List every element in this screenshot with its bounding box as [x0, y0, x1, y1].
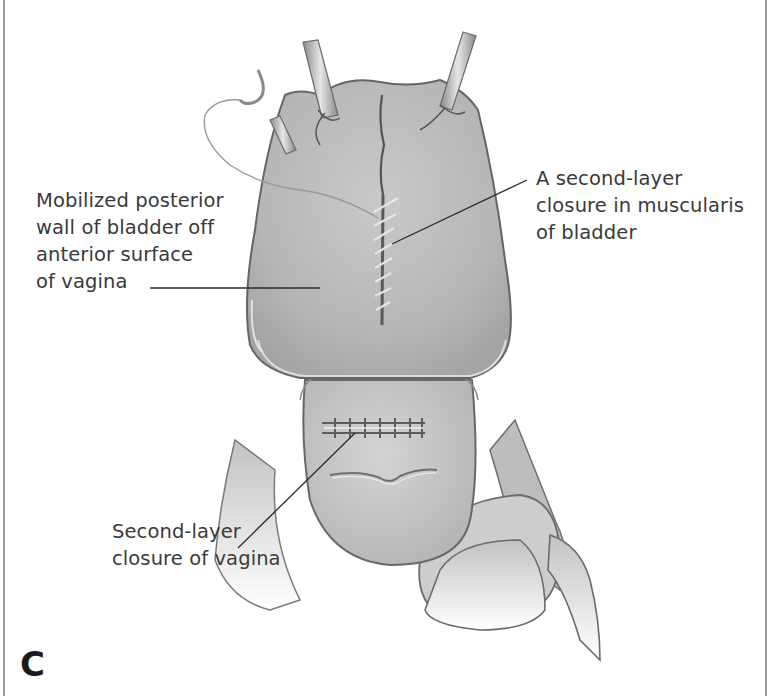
label-line: of vagina [36, 268, 224, 295]
label-line: closure in muscularis [536, 192, 744, 219]
label-line: of bladder [536, 219, 744, 246]
label-line: anterior surface [36, 241, 224, 268]
surgical-illustration [0, 0, 773, 696]
label-line: closure of vagina [112, 545, 281, 572]
figure-frame: Mobilized posterior wall of bladder off … [0, 0, 773, 696]
bladder-illustration [247, 80, 511, 378]
label-line: A second-layer [536, 165, 744, 192]
label-vagina-closure: Second-layer closure of vagina [112, 518, 281, 572]
vagina-illustration [300, 370, 478, 565]
label-muscularis-closure: A second-layer closure in muscularis of … [536, 165, 744, 246]
label-bladder-wall: Mobilized posterior wall of bladder off … [36, 187, 224, 295]
label-line: Mobilized posterior [36, 187, 224, 214]
panel-letter: C [20, 644, 45, 684]
label-line: Second-layer [112, 518, 281, 545]
label-line: wall of bladder off [36, 214, 224, 241]
